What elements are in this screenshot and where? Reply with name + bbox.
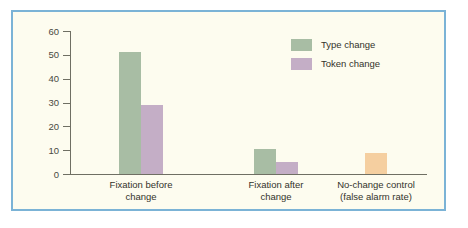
legend-label: Type change bbox=[321, 40, 375, 50]
legend-swatch bbox=[291, 58, 312, 70]
x-axis-line bbox=[70, 174, 427, 175]
bar bbox=[365, 153, 387, 174]
bar bbox=[254, 149, 276, 174]
chart-legend: Type changeToken change bbox=[291, 39, 380, 77]
legend-label: Token change bbox=[321, 59, 380, 69]
chart-figure: 0102030405060 Fixation before changeFixa… bbox=[11, 10, 446, 211]
bar bbox=[119, 52, 141, 174]
legend-swatch bbox=[291, 39, 312, 51]
y-axis-tick: 0 bbox=[63, 174, 71, 175]
x-axis-category-label: Fixation before change bbox=[81, 179, 201, 202]
plot-area: 0102030405060 Fixation before changeFixa… bbox=[13, 12, 444, 209]
legend-item: Type change bbox=[291, 39, 380, 51]
bar bbox=[276, 162, 298, 174]
bar bbox=[141, 105, 163, 174]
x-axis-category-label: No-change control (false alarm rate) bbox=[316, 179, 436, 202]
legend-item: Token change bbox=[291, 58, 380, 70]
